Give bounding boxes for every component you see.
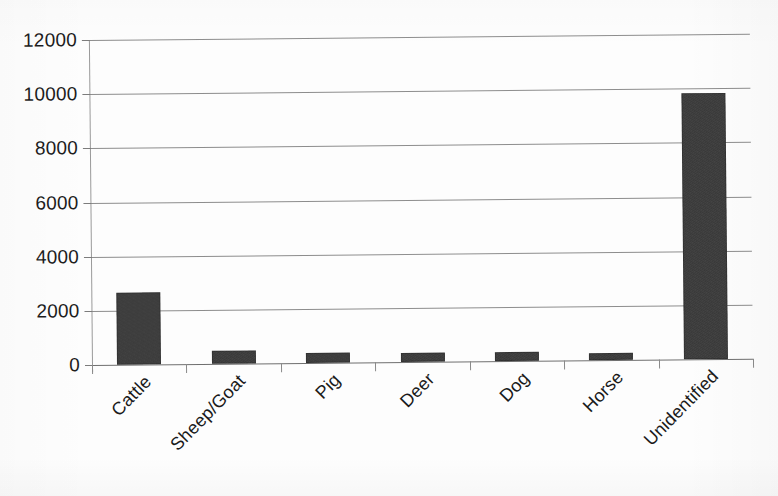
x-tick-3 — [375, 362, 376, 371]
gridline-10000 — [89, 88, 750, 95]
x-tick-label-deer: Deer — [396, 369, 439, 412]
bar-deer — [400, 353, 444, 362]
gridline-6000 — [90, 197, 751, 204]
gridline-2000 — [91, 305, 752, 312]
x-tick-label-unidentified: Unidentified — [640, 366, 723, 450]
x-tick-label-horse: Horse — [579, 367, 628, 417]
y-tick-label-8000: 8000 — [4, 138, 78, 158]
y-tick-label-2000: 2000 — [5, 301, 79, 321]
gridline-12000 — [89, 34, 750, 41]
x-tick-label-dog: Dog — [496, 368, 535, 407]
y-tick-4000 — [84, 257, 92, 258]
x-tick-0 — [92, 365, 93, 374]
x-tick-7 — [753, 359, 754, 368]
bar-sheep-goat — [212, 350, 256, 363]
x-tick-2 — [281, 363, 282, 372]
bar-unidentified — [681, 93, 728, 359]
x-tick-1 — [186, 364, 187, 373]
y-tick-label-0: 0 — [6, 355, 80, 375]
y-tick-label-12000: 12000 — [3, 30, 77, 50]
y-tick-12000 — [82, 40, 90, 41]
x-tick-6 — [659, 360, 660, 369]
bar-pig — [306, 352, 350, 362]
y-tick-8000 — [83, 148, 91, 149]
y-axis-line — [89, 40, 93, 372]
x-tick-4 — [470, 361, 471, 370]
x-tick-5 — [564, 360, 565, 369]
y-tick-label-4000: 4000 — [5, 247, 79, 267]
plot-area: 12000 10000 8000 6000 4000 2000 0 — [0, 0, 778, 496]
bar-cattle — [117, 292, 162, 364]
y-tick-label-6000: 6000 — [4, 193, 78, 213]
bar-chart: 12000 10000 8000 6000 4000 2000 0 — [0, 0, 778, 496]
y-tick-10000 — [82, 94, 90, 95]
bar-dog — [495, 352, 539, 361]
bar-horse — [589, 353, 633, 360]
x-tick-label-pig: Pig — [311, 370, 345, 404]
y-tick-2000 — [84, 311, 92, 312]
y-tick-label-10000: 10000 — [3, 84, 77, 104]
gridline-4000 — [91, 251, 752, 258]
gridline-8000 — [90, 142, 751, 149]
x-tick-label-sheep-goat: Sheep/Goat — [166, 371, 250, 456]
x-tick-label-cattle: Cattle — [107, 372, 156, 421]
y-tick-6000 — [83, 203, 91, 204]
